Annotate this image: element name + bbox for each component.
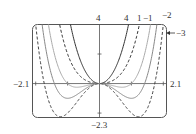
x-axis-max-label: 2.1 (170, 80, 181, 89)
curve-label-cm1: −1 (143, 14, 153, 23)
x-axis-min-label: −2.1 (13, 80, 29, 89)
curve-label-c1: 1 (137, 14, 142, 23)
y-axis-max-label: 4 (96, 14, 101, 23)
curve-label-c4: 4 (124, 14, 129, 23)
curve-label-cm3: −3 (176, 29, 186, 38)
y-axis-min-label: −2.3 (91, 121, 107, 130)
axes (33, 25, 167, 118)
curve-label-cm2: −2 (162, 11, 172, 20)
